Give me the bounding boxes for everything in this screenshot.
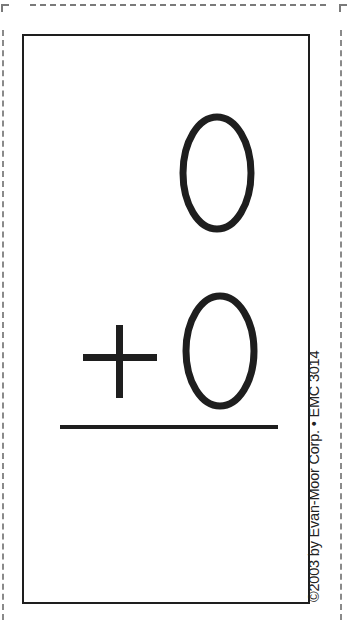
bottom-number-zero: [186, 296, 254, 406]
answer-line: [60, 425, 278, 429]
top-number-zero: [183, 117, 251, 229]
plus-sign-icon: [83, 325, 157, 398]
copyright-text: ©2003 by Evan-Moor Corp. • EMC 3014: [306, 351, 322, 602]
